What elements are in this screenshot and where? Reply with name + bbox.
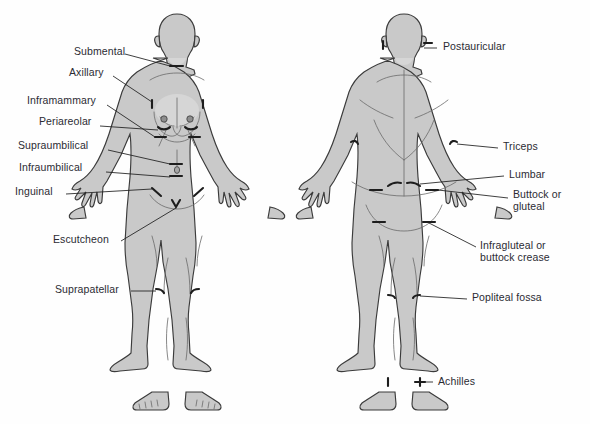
label-periareolar: Periareolar <box>39 116 91 128</box>
label-inframammary: Inframammary <box>27 95 96 107</box>
mark-inguinal-right <box>194 188 203 196</box>
mark-suprapatellar-right <box>191 289 199 293</box>
label-infragluteal-line2: buttock crease <box>480 252 550 264</box>
label-suprapatellar: Suprapatellar <box>55 284 119 296</box>
label-axillary: Axillary <box>69 67 104 79</box>
posterior-torso <box>299 58 476 372</box>
mark-popliteal-left <box>388 295 395 298</box>
label-infragluteal: Infragluteal or buttock crease <box>480 240 550 263</box>
posterior-hand-right <box>495 207 512 219</box>
label-buttock-gluteal-line1: Buttock or <box>513 189 561 201</box>
label-buttock-gluteal-line2: gluteal <box>513 201 561 213</box>
label-popliteal-fossa: Popliteal fossa <box>472 292 542 304</box>
posterior-foot-right <box>412 392 448 410</box>
diagram-canvas: Submental Axillary Inframammary Periareo… <box>0 0 590 424</box>
posterior-leader-lines <box>420 48 508 382</box>
label-infragluteal-line1: Infragluteal or <box>480 240 550 252</box>
anterior-umbilicus <box>174 167 179 174</box>
label-triceps: Triceps <box>503 141 538 153</box>
label-supraumbilical: Supraumbilical <box>18 140 88 152</box>
posterior-figure <box>296 14 511 410</box>
body-diagram-svg <box>0 0 590 424</box>
anterior-hand-right <box>268 207 285 219</box>
label-escutcheon: Escutcheon <box>53 234 109 246</box>
mark-achilles-right <box>415 378 425 386</box>
anterior-ear-right <box>194 36 199 47</box>
mark-triceps-right <box>450 141 457 144</box>
label-buttock-gluteal: Buttock or gluteal <box>513 189 561 212</box>
anterior-nipple-left <box>161 116 167 122</box>
label-submental: Submental <box>74 46 125 58</box>
posterior-ear-right <box>421 36 426 47</box>
anterior-hand-left <box>69 207 86 219</box>
leader-triceps <box>457 144 498 148</box>
posterior-foot-left <box>360 392 396 410</box>
anterior-nipple-right <box>187 116 193 122</box>
leader-infragluteal <box>429 223 476 247</box>
posterior-hand-left <box>296 207 313 219</box>
leader-popliteal <box>420 296 467 299</box>
label-achilles: Achilles <box>438 376 475 388</box>
mark-suprapatellar-left <box>156 289 164 293</box>
label-infraumbilical: Infraumbilical <box>19 162 82 174</box>
label-inguinal: Inguinal <box>15 186 53 198</box>
label-lumbar: Lumbar <box>509 169 545 181</box>
anterior-ear-left <box>155 36 160 47</box>
label-postauricular: Postauricular <box>443 41 506 53</box>
